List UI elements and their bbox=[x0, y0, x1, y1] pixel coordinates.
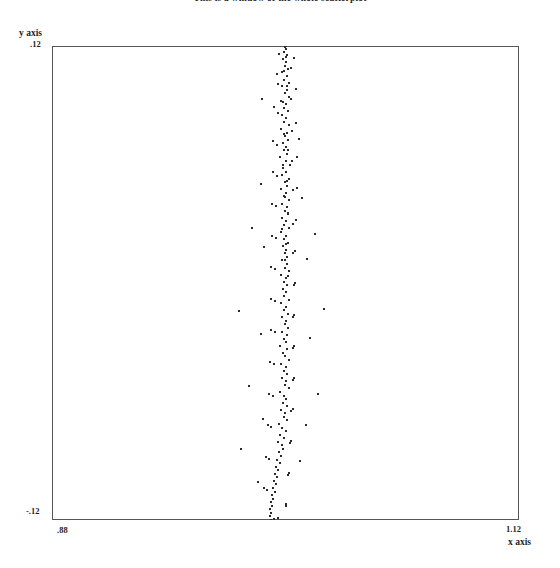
scatter-point bbox=[286, 132, 288, 134]
scatterplot-figure: This is a window of the whole scatterplo… bbox=[0, 0, 560, 568]
scatter-point bbox=[238, 310, 240, 312]
scatter-point bbox=[301, 197, 303, 199]
scatter-point bbox=[284, 252, 286, 254]
scatter-point bbox=[286, 284, 288, 286]
scatter-point bbox=[271, 203, 273, 205]
scatter-point bbox=[276, 175, 278, 177]
scatter-point bbox=[286, 153, 288, 155]
scatter-point bbox=[263, 246, 265, 248]
scatter-point bbox=[285, 430, 287, 432]
scatter-point bbox=[273, 518, 275, 520]
scatter-point bbox=[269, 361, 271, 363]
scatter-point bbox=[283, 281, 285, 283]
scatter-point bbox=[295, 122, 297, 124]
scatter-point bbox=[283, 295, 285, 297]
scatter-point bbox=[285, 320, 287, 322]
scatter-point bbox=[281, 316, 283, 318]
scatter-point bbox=[290, 410, 292, 412]
scatter-point bbox=[285, 160, 287, 162]
scatter-point bbox=[284, 267, 286, 269]
scatter-point bbox=[280, 274, 282, 276]
scatter-point bbox=[292, 408, 294, 410]
scatter-point bbox=[299, 460, 301, 462]
scatter-point bbox=[281, 114, 283, 116]
scatter-point bbox=[287, 242, 289, 244]
scatter-point bbox=[276, 459, 278, 461]
scatter-point bbox=[292, 223, 294, 225]
scatter-point bbox=[287, 327, 289, 329]
scatter-point bbox=[282, 245, 284, 247]
scatter-point bbox=[261, 98, 263, 100]
scatter-point bbox=[286, 85, 288, 87]
scatter-point bbox=[298, 138, 300, 140]
scatter-point bbox=[266, 489, 268, 491]
scatter-point bbox=[270, 329, 272, 331]
scatter-point bbox=[305, 424, 307, 426]
scatter-point bbox=[267, 424, 269, 426]
scatter-point bbox=[288, 227, 290, 229]
scatter-point bbox=[288, 96, 290, 98]
scatter-point bbox=[287, 149, 289, 151]
scatter-point bbox=[285, 366, 287, 368]
scatter-point bbox=[285, 505, 287, 507]
scatter-point bbox=[323, 308, 325, 310]
scatter-point bbox=[277, 112, 279, 114]
scatter-point bbox=[281, 217, 283, 219]
scatter-point bbox=[280, 128, 282, 130]
scatter-point bbox=[285, 56, 287, 58]
scatter-point bbox=[285, 61, 287, 63]
scatter-point bbox=[270, 426, 272, 428]
scatter-point bbox=[284, 259, 286, 261]
scatter-point bbox=[287, 474, 289, 476]
scatter-point bbox=[287, 275, 289, 277]
scatter-point bbox=[290, 98, 292, 100]
scatter-point bbox=[278, 53, 280, 55]
scatter-point bbox=[251, 227, 253, 229]
scatter-point bbox=[273, 363, 275, 365]
scatter-point bbox=[290, 67, 292, 69]
scatter-point bbox=[283, 437, 285, 439]
scatter-point bbox=[293, 377, 295, 379]
scatter-point bbox=[270, 266, 272, 268]
scatter-point bbox=[281, 444, 283, 446]
scatter-point bbox=[277, 83, 279, 85]
scatter-point bbox=[276, 144, 278, 146]
scatter-point bbox=[286, 263, 288, 265]
scatter-point bbox=[286, 180, 288, 182]
scatter-point bbox=[262, 418, 264, 420]
scatter-point bbox=[283, 370, 285, 372]
scatter-point bbox=[296, 156, 298, 158]
scatter-point bbox=[292, 347, 294, 349]
scatter-point bbox=[282, 167, 284, 169]
x-axis-tick-max: 1.12 bbox=[506, 524, 521, 534]
scatter-point bbox=[281, 71, 283, 73]
chart-title: This is a window of the whole scatterplo… bbox=[0, 0, 560, 3]
scatter-point bbox=[309, 337, 311, 339]
scatter-point bbox=[295, 219, 297, 221]
scatter-point bbox=[290, 440, 292, 442]
scatter-point bbox=[281, 85, 283, 87]
scatter-point bbox=[283, 133, 285, 135]
scatter-point bbox=[277, 469, 279, 471]
scatter-point bbox=[284, 323, 286, 325]
scatter-point bbox=[284, 65, 286, 67]
scatter-point bbox=[282, 58, 284, 60]
scatter-point bbox=[293, 284, 295, 286]
scatter-point bbox=[283, 338, 285, 340]
scatter-point bbox=[284, 355, 286, 357]
scatter-point bbox=[284, 92, 286, 94]
scatter-point bbox=[289, 164, 291, 166]
scatter-point bbox=[286, 373, 288, 375]
scatter-point bbox=[283, 416, 285, 418]
scatter-point bbox=[286, 89, 288, 91]
scatter-point bbox=[260, 333, 262, 335]
scatter-point bbox=[296, 187, 298, 189]
scatter-point bbox=[286, 256, 288, 258]
scatter-point bbox=[260, 183, 262, 185]
scatter-point bbox=[288, 359, 290, 361]
scatter-point bbox=[295, 88, 297, 90]
scatter-point bbox=[279, 462, 281, 464]
scatter-point bbox=[292, 316, 294, 318]
scatter-point bbox=[280, 231, 282, 233]
scatter-point bbox=[278, 451, 280, 453]
